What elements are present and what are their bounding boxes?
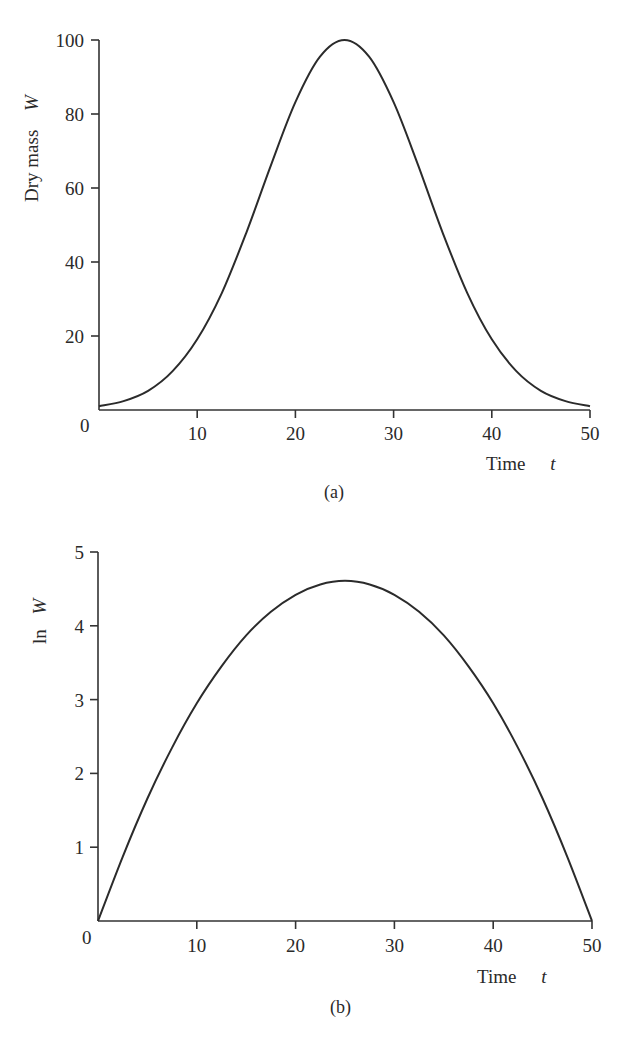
chart-b-y-axis-title: ln W — [29, 596, 50, 644]
chart-b: 123451020304050 0 ln W Time t (b) — [29, 542, 602, 1018]
y-tick-label: 1 — [75, 837, 85, 858]
chart-a-y-axis-title-var: W — [21, 93, 42, 111]
chart-b-caption: (b) — [330, 997, 351, 1018]
chart-b-curve — [98, 581, 592, 921]
x-tick-label: 30 — [384, 423, 403, 444]
y-tick-label: 5 — [75, 542, 85, 563]
x-tick-label: 20 — [286, 935, 305, 956]
y-tick-label: 3 — [75, 690, 85, 711]
y-tick-label: 100 — [56, 30, 85, 51]
x-tick-label: 30 — [385, 935, 404, 956]
chart-a-caption: (a) — [324, 482, 344, 503]
chart-b-y-axis-title-text: ln — [29, 629, 50, 644]
x-tick-label: 10 — [187, 935, 206, 956]
chart-a: 204060801001020304050 0 Dry mass W Time … — [21, 30, 600, 503]
y-tick-label: 80 — [65, 104, 84, 125]
x-tick-label: 50 — [583, 935, 602, 956]
chart-b-axes: 123451020304050 — [75, 542, 602, 956]
chart-b-origin-label: 0 — [82, 927, 92, 948]
chart-a-line-series — [99, 40, 590, 406]
chart-b-x-axis-title: Time t — [477, 966, 547, 987]
chart-a-curve — [99, 40, 590, 406]
y-tick-label: 2 — [75, 763, 85, 784]
y-tick-label: 40 — [65, 252, 84, 273]
chart-b-x-axis-title-text: Time — [477, 966, 516, 987]
chart-a-x-axis-title-text: Time — [486, 453, 525, 474]
figure: 204060801001020304050 0 Dry mass W Time … — [0, 0, 629, 1040]
chart-b-y-axis-title-var: W — [29, 596, 50, 614]
x-tick-label: 50 — [581, 423, 600, 444]
chart-b-x-axis-title-var: t — [541, 966, 547, 987]
chart-b-line-series — [98, 581, 592, 921]
y-tick-label: 4 — [75, 616, 85, 637]
chart-a-x-axis-title-var: t — [550, 453, 556, 474]
chart-a-axes: 204060801001020304050 — [56, 30, 600, 444]
x-tick-label: 40 — [482, 423, 501, 444]
x-tick-label: 40 — [484, 935, 503, 956]
chart-a-x-axis-title: Time t — [486, 453, 556, 474]
chart-a-origin-label: 0 — [80, 415, 90, 436]
x-tick-label: 10 — [188, 423, 207, 444]
y-tick-label: 20 — [65, 326, 84, 347]
x-tick-label: 20 — [286, 423, 305, 444]
chart-a-y-axis-title: Dry mass W — [21, 93, 42, 202]
chart-a-y-axis-title-text: Dry mass — [21, 130, 42, 202]
y-tick-label: 60 — [65, 178, 84, 199]
